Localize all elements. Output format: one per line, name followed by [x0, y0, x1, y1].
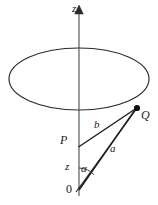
- point-p-label: P: [60, 134, 67, 146]
- segment-b-label: b: [94, 119, 100, 130]
- point-q-marker: [134, 105, 140, 111]
- segment-a-label: a: [110, 143, 116, 154]
- segment-z-label: z: [65, 161, 69, 172]
- angle-alpha-label: α: [81, 163, 87, 174]
- z-axis-label: z: [72, 3, 76, 14]
- segment-b-line: [79, 109, 137, 148]
- geometry-canvas: [0, 0, 158, 205]
- segment-chord-line: [76, 110, 136, 193]
- point-q-label: Q: [141, 109, 150, 121]
- geometry-figure: z Q b P a z α 0: [0, 0, 158, 205]
- origin-label: 0: [66, 183, 72, 195]
